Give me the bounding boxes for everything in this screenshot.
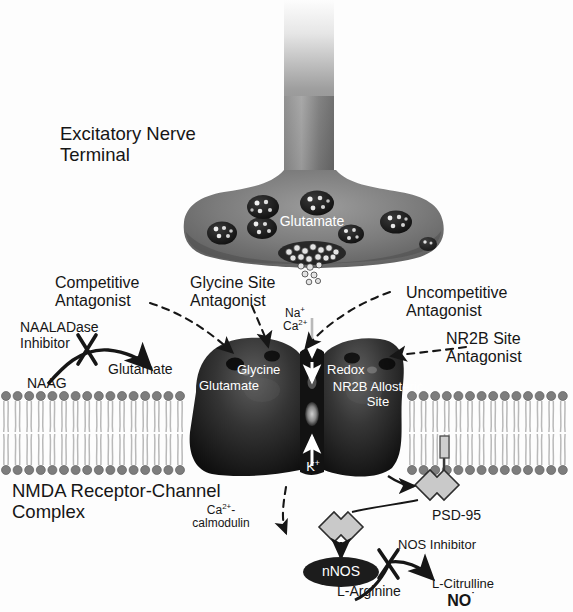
- glycine-site-antagonist-label: Glycine Site Antagonist: [190, 274, 275, 310]
- l-arginine-label: L-Arginine: [337, 584, 401, 600]
- l-citrulline-label: L-Citrulline: [432, 577, 494, 592]
- extracellular-glutamate-label: Glutamate: [108, 362, 173, 378]
- synaptic-vesicle: [247, 195, 279, 219]
- synaptic-vesicle: [380, 211, 412, 234]
- nr2b-allosteric-site-label: NR2B Allosteric Site: [333, 380, 423, 409]
- nmda-complex-label: NMDA Receptor-Channel Complex: [12, 481, 221, 522]
- calcium-calmodulin-label: Ca2+- calmodulin: [192, 504, 249, 531]
- naaladase-inhibitor-label: NAALADase Inhibitor: [20, 320, 99, 351]
- uncompetitive-antagonist-label: Uncompetitive Antagonist: [406, 284, 507, 320]
- naag-label: NAAG: [27, 376, 67, 392]
- nos-inhibitor-label: NOS Inhibitor: [398, 538, 476, 553]
- glutamate-vesicle-label: Glutamate: [280, 214, 345, 230]
- figure-canvas: Excitatory Nerve Terminal Glutamate Comp…: [0, 0, 573, 612]
- leader-calcium-to-nnos: [283, 487, 286, 533]
- nr2b-site-antagonist-label: NR2B Site Antagonist: [446, 330, 522, 366]
- synaptic-vesicle: [300, 191, 334, 216]
- nnos-label: nNOS: [322, 564, 360, 580]
- calmodulin-domain: [319, 512, 363, 542]
- synaptic-vesicle: [247, 217, 277, 239]
- competitive-antagonist-label: Competitive Antagonist: [55, 274, 139, 310]
- redox-site-label: Redox: [327, 363, 365, 378]
- glycine-binding-site-label: Glycine: [237, 363, 280, 378]
- psd95-label: PSD-95: [432, 508, 481, 524]
- calcium-ion-label: Ca2+: [283, 320, 307, 333]
- nerve-terminal-label: Excitatory Nerve Terminal: [60, 124, 196, 165]
- potassium-efflux-label: K+: [306, 460, 320, 475]
- glutamate-binding-site-label: Glutamate: [199, 379, 259, 394]
- synaptic-vesicle: [207, 222, 237, 245]
- leader-competitive: [150, 303, 232, 352]
- nitric-oxide-label: NO˙: [447, 592, 475, 610]
- synaptic-vesicle: [419, 237, 437, 251]
- nos-inhibitor-block-x: [379, 550, 398, 578]
